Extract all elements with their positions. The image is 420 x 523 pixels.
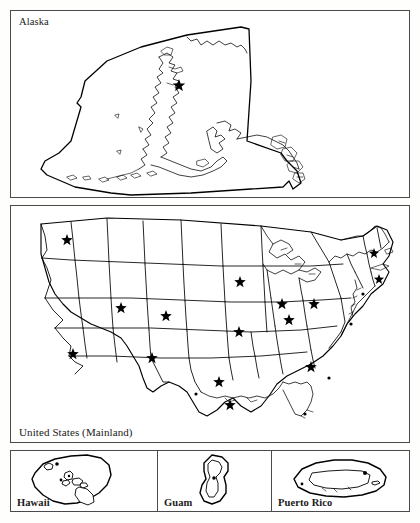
figure-sheet: Alaska xyxy=(0,0,420,523)
mainland-map xyxy=(11,206,410,443)
panel-mainland[interactable]: United States (Mainland) xyxy=(10,205,410,443)
panel-alaska[interactable]: Alaska xyxy=(10,10,410,198)
alaska-map xyxy=(11,11,410,198)
panel-label-guam: Guam xyxy=(164,497,192,508)
capital-marker xyxy=(173,79,185,91)
panel-guam[interactable]: Guam xyxy=(157,450,272,512)
panel-label-puertorico: Puerto Rico xyxy=(278,497,332,508)
panel-hawaii[interactable]: Hawaii xyxy=(10,450,158,512)
panel-label-hawaii: Hawaii xyxy=(17,497,50,508)
panel-label-alaska: Alaska xyxy=(19,16,49,27)
island-panels-row: Hawaii Guam Puerto Rico xyxy=(10,450,410,512)
panel-label-mainland: United States (Mainland) xyxy=(19,426,133,438)
panel-puertorico[interactable]: Puerto Rico xyxy=(271,450,410,512)
